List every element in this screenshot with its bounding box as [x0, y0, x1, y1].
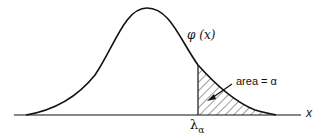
lambda-symbol: λ: [190, 117, 198, 132]
area-label: area = α: [236, 75, 277, 87]
critical-value-label: λα: [190, 117, 204, 135]
normal-curve-diagram: [0, 0, 326, 138]
density-curve: [26, 8, 276, 115]
alpha-subscript: α: [198, 125, 204, 135]
shaded-tail-area: [198, 60, 278, 116]
x-axis-label: x: [306, 106, 312, 120]
curve-label: φ (x): [187, 28, 215, 42]
